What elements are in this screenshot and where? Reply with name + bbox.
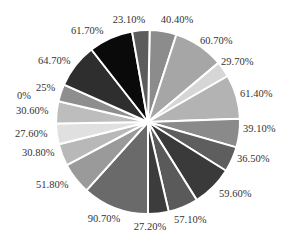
slice-label: 29.70%: [221, 56, 254, 67]
slice-label: 59.60%: [219, 188, 252, 199]
pie-slices: [56, 30, 240, 214]
slice-label: 61.70%: [71, 25, 104, 36]
slice-label: 57.10%: [174, 214, 207, 225]
pie-chart: 40.40%60.70%29.70%61.40%39.10%36.50%59.6…: [0, 0, 293, 241]
slice-label: 39.10%: [243, 123, 276, 134]
slice-label: 40.40%: [161, 14, 194, 25]
slice-label: 30.80%: [22, 147, 55, 158]
slice-label: 25%: [36, 82, 56, 93]
slice-label: 36.50%: [237, 153, 270, 164]
slice-label: 30.60%: [16, 105, 49, 116]
slice-label: 51.80%: [36, 179, 69, 190]
slice-label: 23.10%: [113, 14, 146, 25]
slice-label: 27.60%: [15, 128, 48, 139]
slice-label: 0%: [17, 90, 31, 101]
slice-label: 64.70%: [38, 55, 71, 66]
slice-label: 27.20%: [134, 221, 167, 232]
slice-label: 90.70%: [88, 213, 121, 224]
slice-label: 61.40%: [240, 88, 273, 99]
slice-label: 60.70%: [200, 35, 233, 46]
